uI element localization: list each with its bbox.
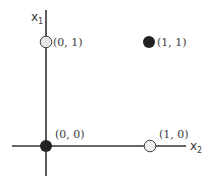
point-1-0-open-circle (144, 140, 156, 152)
point-1-1-filled-circle (143, 36, 155, 48)
point-1-1-label: (1, 1) (157, 36, 187, 49)
point-0-1-label: (0, 1) (53, 36, 83, 49)
x2-axis-label: x2 (190, 139, 202, 155)
xor-diagram: x1 x2 (0, 1) (1, 1) (0, 0) (1, 0) (0, 0, 211, 184)
point-0-0-filled-circle (40, 140, 52, 152)
point-0-0-label: (0, 0) (55, 128, 85, 141)
point-0-1-open-circle (40, 36, 52, 48)
point-1-0-label: (1, 0) (159, 128, 189, 141)
x1-axis-label: x1 (31, 10, 43, 26)
